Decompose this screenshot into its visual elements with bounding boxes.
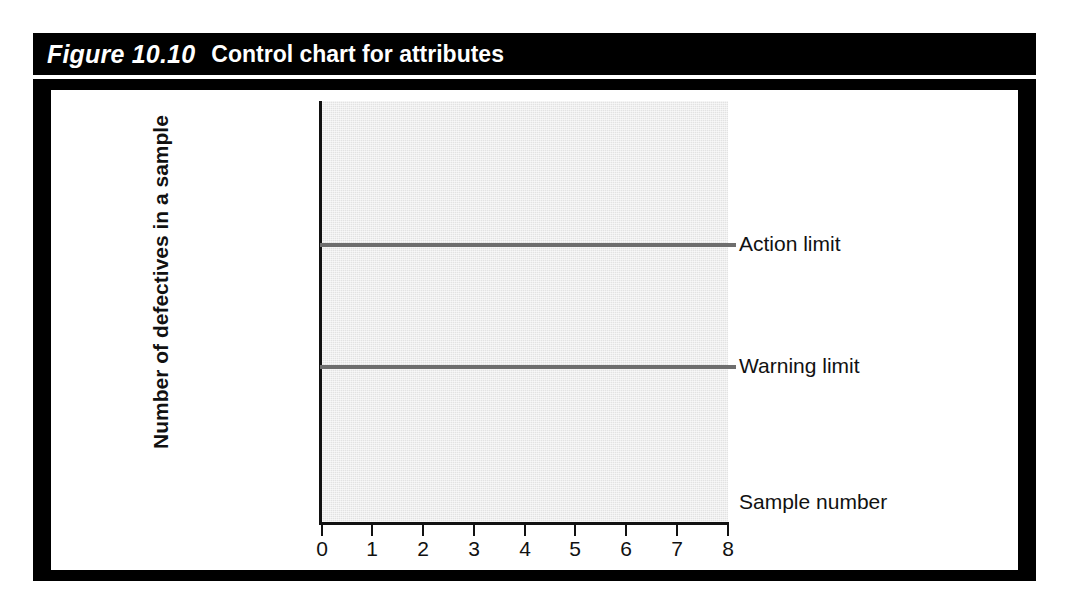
y-axis-title: Number of defectives in a sample <box>149 112 173 452</box>
x-tick-4 <box>524 525 526 536</box>
x-tick-label-2: 2 <box>410 538 436 559</box>
x-tick-0 <box>321 525 323 536</box>
x-tick-8 <box>727 525 729 536</box>
x-tick-6 <box>625 525 627 536</box>
x-tick-label-3: 3 <box>461 538 487 559</box>
x-tick-label-5: 5 <box>562 538 588 559</box>
action-limit-line <box>320 243 736 247</box>
warning-limit-line <box>320 365 736 369</box>
x-tick-1 <box>371 525 373 536</box>
x-tick-3 <box>473 525 475 536</box>
x-tick-label-7: 7 <box>664 538 690 559</box>
action-limit-label: Action limit <box>739 233 841 254</box>
y-axis-line <box>319 101 322 525</box>
figure-container: Figure 10.10 Control chart for attribute… <box>0 0 1082 613</box>
x-tick-label-1: 1 <box>359 538 385 559</box>
figure-number: Figure 10.10 <box>47 40 195 69</box>
figure-canvas: Action limit Warning limit 0 1 2 3 4 5 6… <box>51 90 1018 570</box>
x-tick-label-0: 0 <box>309 538 335 559</box>
x-tick-7 <box>676 525 678 536</box>
x-tick-label-4: 4 <box>512 538 538 559</box>
x-tick-label-8: 8 <box>715 538 741 559</box>
x-tick-label-6: 6 <box>613 538 639 559</box>
warning-limit-label: Warning limit <box>739 355 860 376</box>
plot-area <box>322 101 728 522</box>
figure-title: Control chart for attributes <box>211 41 504 68</box>
x-tick-5 <box>574 525 576 536</box>
x-tick-2 <box>422 525 424 536</box>
x-axis-title: Sample number <box>739 490 887 514</box>
figure-header-bar: Figure 10.10 Control chart for attribute… <box>33 33 1036 75</box>
control-chart: Action limit Warning limit 0 1 2 3 4 5 6… <box>51 90 1018 570</box>
